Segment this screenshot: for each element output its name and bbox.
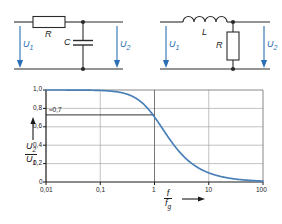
y-tick-label-0: 0 [39, 179, 43, 186]
y-axis-title: U2 U1 [25, 142, 37, 166]
label-voltage-u1-left: U1 [23, 40, 33, 51]
x-axis-title-denominator: fg [164, 198, 172, 211]
x-axis-title: f fg [164, 189, 172, 211]
x-tick-label-10: 10 [205, 187, 212, 194]
x-axis-title-numerator: f [164, 189, 172, 198]
label-resistor-R-right: R [216, 41, 223, 50]
y-tick-label-0-6: 0,6 [33, 123, 42, 130]
voltage-arrow-u2-head [261, 60, 267, 68]
label-voltage-u1-right-sub: 1 [176, 44, 180, 51]
resistor-symbol-R [33, 17, 65, 28]
x-tick-label-0-1: 0,1 [96, 187, 105, 194]
label-voltage-u1-right: U1 [169, 40, 179, 51]
x-axis-direction-arrow [182, 196, 205, 201]
x-tick-label-0-01: 0,01 [40, 187, 53, 194]
voltage-arrow-u1-head [17, 60, 23, 68]
y-axis-title-numerator: U2 [25, 142, 37, 154]
label-voltage-u2-left-sub: 2 [127, 44, 131, 51]
junction-dot-bottom [81, 67, 85, 71]
label-voltage-u2-right-sub: 2 [274, 44, 278, 51]
x-tick-label-100: 100 [256, 187, 267, 194]
label-voltage-u2-right: U2 [267, 40, 277, 51]
voltage-arrow-u2-head [114, 60, 120, 68]
figure-root: R C U1 U2 L R U1 U2 1,0 0,8 0,6 0,4 0,2 … [0, 0, 282, 224]
y-tick-label-0-8: 0,8 [33, 105, 42, 112]
chart [30, 90, 263, 202]
label-voltage-u1-left-sub: 1 [30, 44, 34, 51]
y-axis-title-denominator: U1 [25, 154, 37, 167]
label-inductor-L: L [202, 28, 207, 37]
label-capacitor-C: C [64, 38, 71, 47]
resistor-symbol-R [227, 32, 239, 60]
voltage-arrow-u1-head [163, 60, 169, 68]
y-tick-label-1-0: 1,0 [33, 86, 42, 93]
label-voltage-u2-left: U2 [120, 40, 130, 51]
junction-dot-bottom [231, 67, 235, 71]
inductor-symbol-L [183, 17, 227, 23]
label-resistor-R-left: R [45, 30, 52, 39]
x-tick-label-1: 1 [152, 187, 156, 194]
annotation-label-approx-0-7: ≈0,7 [49, 107, 62, 114]
